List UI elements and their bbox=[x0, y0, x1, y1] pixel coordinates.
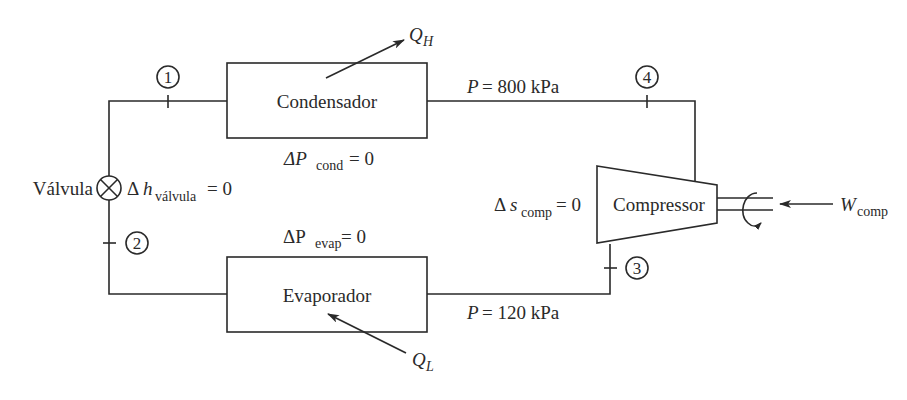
compressor-shaft bbox=[717, 193, 773, 226]
condenser-condition: ΔP cond = 0 bbox=[283, 148, 374, 173]
evaporator-label: Evaporador bbox=[283, 285, 372, 306]
pipe-evaporator-to-compressor bbox=[427, 244, 610, 294]
pipe-condenser-to-valve bbox=[109, 101, 227, 176]
svg-text:2: 2 bbox=[133, 234, 142, 253]
compressor-label: Compressor bbox=[613, 194, 706, 215]
svg-text:L: L bbox=[425, 359, 434, 374]
piping bbox=[109, 101, 695, 294]
svg-text:P: P bbox=[466, 302, 479, 323]
pipe-compressor-to-condenser bbox=[427, 101, 695, 181]
svg-text:1: 1 bbox=[164, 68, 173, 87]
svg-text:válvula: válvula bbox=[155, 189, 197, 204]
svg-text:comp: comp bbox=[857, 204, 888, 219]
svg-text:Q: Q bbox=[409, 24, 423, 45]
evaporator: Evaporador bbox=[227, 257, 427, 332]
expansion-valve bbox=[97, 176, 121, 200]
svg-text:P: P bbox=[466, 76, 479, 97]
state-3-marker: 3 bbox=[626, 257, 648, 279]
svg-text:H: H bbox=[422, 34, 434, 49]
svg-text:ΔP: ΔP bbox=[283, 226, 306, 247]
svg-text:comp: comp bbox=[521, 205, 552, 220]
state-4-marker: 4 bbox=[636, 66, 658, 88]
svg-text:evap: evap bbox=[315, 236, 341, 251]
svg-text:= 800 kPa: = 800 kPa bbox=[482, 76, 560, 97]
condenser: Condensador bbox=[227, 63, 427, 138]
svg-text:s: s bbox=[510, 194, 517, 215]
high-pressure-label: P = 800 kPa bbox=[466, 76, 560, 97]
evaporator-condition: ΔP evap = 0 bbox=[283, 226, 366, 251]
svg-text:Q: Q bbox=[412, 349, 426, 370]
refrigeration-cycle-diagram: 1 2 3 4 Condensador ΔP cond = 0 Q H P = … bbox=[0, 0, 907, 400]
svg-text:h: h bbox=[143, 178, 153, 199]
condenser-label: Condensador bbox=[277, 91, 378, 112]
valve-condition: Δ h válvula = 0 bbox=[127, 178, 232, 204]
svg-text:ΔP: ΔP bbox=[283, 148, 307, 169]
svg-text:= 120 kPa: = 120 kPa bbox=[482, 302, 560, 323]
q-low-label: Q L bbox=[412, 349, 434, 374]
heat-out-arrow-icon bbox=[326, 40, 404, 78]
svg-text:= 0: = 0 bbox=[341, 226, 366, 247]
svg-text:Δ: Δ bbox=[127, 178, 139, 199]
state-2-marker: 2 bbox=[126, 232, 148, 254]
q-high-label: Q H bbox=[409, 24, 434, 49]
valve-label: Válvula bbox=[33, 178, 94, 199]
work-label: W comp bbox=[840, 194, 888, 219]
svg-text:4: 4 bbox=[643, 68, 652, 87]
heat-in-arrow-icon bbox=[328, 314, 406, 353]
svg-text:W: W bbox=[840, 194, 858, 215]
compressor: Compressor bbox=[597, 166, 717, 243]
svg-text:= 0: = 0 bbox=[207, 178, 232, 199]
svg-text:= 0: = 0 bbox=[556, 194, 581, 215]
svg-text:3: 3 bbox=[633, 259, 642, 278]
low-pressure-label: P = 120 kPa bbox=[466, 302, 560, 323]
compressor-condition: Δ s comp = 0 bbox=[494, 194, 581, 220]
svg-text:Δ: Δ bbox=[494, 194, 506, 215]
state-1-marker: 1 bbox=[157, 66, 179, 88]
svg-text:cond: cond bbox=[316, 158, 343, 173]
svg-text:= 0: = 0 bbox=[349, 148, 374, 169]
